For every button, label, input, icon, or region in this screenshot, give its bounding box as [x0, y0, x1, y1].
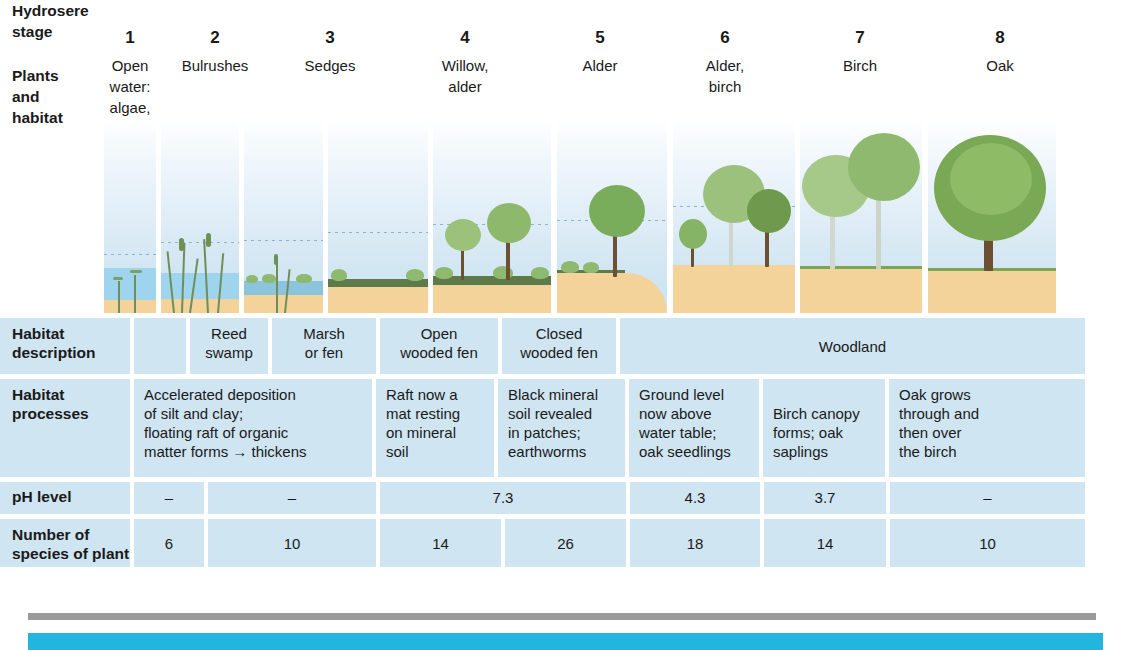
stage-number: 8: [945, 0, 1055, 49]
habitat-processes-cell-raft: Raft now a mat resting on mineral soil: [376, 379, 494, 477]
dry-ground: [928, 269, 1056, 313]
alder-crown: [747, 189, 791, 233]
grass-line: [800, 266, 922, 269]
dry-ground: [673, 265, 795, 313]
aquatic-plant: [134, 275, 136, 313]
stage-plants: Birch: [805, 49, 915, 76]
row-label-habitat-description: Habitat description: [0, 318, 130, 374]
habitat-processes-cell-silt: Accelerated deposition of silt and clay;…: [134, 379, 372, 477]
water-surface-dots: [161, 242, 239, 243]
shrub: [583, 262, 599, 273]
illustration-panel-stage-9: [928, 118, 1056, 313]
illustration-panel-stage-4: [328, 118, 428, 313]
grey-rule: [28, 613, 1096, 620]
shrub: [531, 267, 549, 279]
alder-crown: [589, 185, 645, 237]
succession-illustration-strip: [0, 118, 1085, 313]
water-lily-pad: [113, 277, 123, 280]
habitat-processes-cell-groundlevel: Ground level now above water table; oak …: [629, 379, 759, 477]
illustration-panel-stage-3: [244, 118, 323, 313]
stage-number: 5: [540, 0, 660, 49]
habitat-description-cell-5: Closed wooded fen: [502, 318, 616, 374]
water-lily-pad: [130, 270, 142, 273]
stage-column-4: 4 Willow, alder: [400, 0, 530, 97]
stage-column-6: 6 Alder, birch: [670, 0, 780, 97]
stage-number: 4: [400, 0, 530, 49]
habitat-processes-cell-blackmineral: Black mineral soil revealed in patches; …: [498, 379, 625, 477]
habitat-description-cell-1: [134, 318, 186, 374]
species-cell-7: 10: [890, 519, 1085, 567]
stage-number: 7: [805, 0, 915, 49]
stage-number: 3: [275, 0, 385, 49]
shrub: [406, 269, 424, 281]
table-row-habitat-description: Habitat description Reed swamp Marsh or …: [0, 318, 1085, 374]
stage-number: 2: [160, 0, 270, 49]
habitat-description-cell-4: Open wooded fen: [380, 318, 498, 374]
stage-number: 6: [670, 0, 780, 49]
stage-plants: Sedges: [275, 49, 385, 76]
data-table: Habitat description Reed swamp Marsh or …: [0, 318, 1085, 567]
birch-crown: [848, 133, 920, 201]
habitat-description-cell-3: Marsh or fen: [272, 318, 376, 374]
species-cell-4: 26: [505, 519, 626, 567]
illustration-panel-stage-7: [673, 118, 795, 313]
species-cell-6: 14: [764, 519, 886, 567]
shrub: [435, 267, 453, 279]
table-row-number-of-species: Number of species of plant 6 10 14 26 18…: [0, 519, 1085, 567]
ph-cell-3: 7.3: [380, 482, 626, 514]
stage-plants: Alder, birch: [670, 49, 780, 97]
illustration-panel-stage-6: [557, 118, 667, 313]
ph-cell-5: 3.7: [764, 482, 886, 514]
table-row-ph-level: pH level – – 7.3 4.3 3.7 –: [0, 482, 1085, 514]
illustration-panel-stage-8: [800, 118, 922, 313]
marginal-vegetation: [246, 275, 258, 283]
willow-crown: [445, 219, 481, 251]
habitat-description-cell-woodland: Woodland: [620, 318, 1085, 374]
small-tree-crown: [679, 219, 707, 249]
illustration-panel-stage-1: [104, 118, 156, 313]
sedge-stem: [276, 263, 278, 313]
shrub: [331, 269, 347, 281]
shrub: [493, 266, 513, 279]
water-surface-dots: [244, 240, 323, 241]
species-cell-3: 14: [380, 519, 501, 567]
species-cell-2: 10: [208, 519, 376, 567]
stage-column-8: 8 Oak: [945, 0, 1055, 76]
habitat-processes-cell-birchcanopy: Birch canopy forms; oak saplings: [763, 379, 885, 477]
cyan-rule: [28, 633, 1103, 650]
mineral-soil: [328, 287, 428, 313]
header-area: Hydrosere stage Plants and habitat 1 Ope…: [0, 0, 1085, 118]
species-cell-1: 6: [134, 519, 204, 567]
ph-cell-6: –: [890, 482, 1085, 514]
habitat-description-cell-2: Reed swamp: [190, 318, 268, 374]
row-label-habitat-processes: Habitat processes: [0, 379, 130, 477]
shrub: [561, 261, 579, 273]
stage-column-7: 7 Birch: [805, 0, 915, 76]
bulrush-head: [206, 233, 211, 247]
stage-number: 1: [100, 0, 160, 49]
oak-crown-highlight: [950, 143, 1032, 215]
ph-cell-4: 4.3: [630, 482, 760, 514]
ph-cell-2: –: [208, 482, 376, 514]
row-label-number-of-species: Number of species of plant: [0, 519, 130, 567]
stage-column-5: 5 Alder: [540, 0, 660, 76]
water-surface-dots: [104, 254, 156, 255]
illustration-panel-stage-2: [161, 118, 239, 313]
figure-sheet: Hydrosere stage Plants and habitat 1 Ope…: [0, 0, 1135, 650]
water-surface-dots: [328, 232, 428, 233]
sand-bed: [104, 300, 156, 313]
marginal-vegetation: [296, 274, 312, 283]
habitat-processes-cell-oakgrows: Oak grows through and then over the birc…: [889, 379, 1085, 477]
stage-plants: Oak: [945, 49, 1055, 76]
bulrush-head: [179, 238, 184, 251]
dry-ground: [800, 267, 922, 313]
illustration-panel-stage-5: [433, 118, 551, 313]
marginal-vegetation: [262, 274, 276, 283]
stage-column-2: 2 Bulrushes: [160, 0, 270, 76]
stage-column-3: 3 Sedges: [275, 0, 385, 76]
stage-plants: Alder: [540, 49, 660, 76]
sedge-head: [274, 254, 278, 265]
stage-plants: Willow, alder: [400, 49, 530, 97]
species-cell-5: 18: [630, 519, 760, 567]
ph-cell-1: –: [134, 482, 204, 514]
